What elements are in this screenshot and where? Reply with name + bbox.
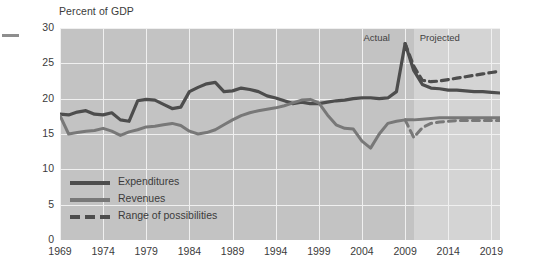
y-tick-label: 10 — [28, 162, 54, 174]
x-tick-label: 1999 — [297, 245, 341, 257]
y-tick-label: 0 — [28, 233, 54, 245]
x-tick-label: 2009 — [383, 245, 427, 257]
x-tick-label: 2019 — [469, 245, 513, 257]
chart-figure: Percent of GDP 051015202530 196919741979… — [0, 0, 535, 269]
x-tick-label: 1989 — [211, 245, 255, 257]
x-tick-label: 1994 — [254, 245, 298, 257]
x-tick-label: 1984 — [167, 245, 211, 257]
y-axis-title: Percent of GDP — [59, 5, 134, 17]
x-tick-label: 2014 — [426, 245, 470, 257]
y-tick-label: 25 — [28, 56, 54, 68]
legend-swatch-range — [70, 215, 110, 219]
x-tick-label: 1979 — [124, 245, 168, 257]
legend-swatch-expenditures — [70, 181, 110, 185]
x-tick-label: 1974 — [81, 245, 125, 257]
line-revenues — [60, 99, 500, 148]
legend-label-revenues: Revenues — [118, 192, 165, 204]
legend-label-range: Range of possibilities — [118, 209, 217, 221]
y-tick-label: 15 — [28, 127, 54, 139]
legend-label-expenditures: Expenditures — [118, 175, 179, 187]
legend-swatch-revenues — [70, 198, 110, 202]
line-range-upper — [405, 44, 500, 82]
line-range-lower — [405, 120, 500, 138]
x-tick-label: 1969 — [38, 245, 82, 257]
left-rule-mark — [2, 34, 19, 37]
x-tick-label: 2004 — [340, 245, 384, 257]
y-tick-label: 5 — [28, 198, 54, 210]
y-tick-label: 20 — [28, 92, 54, 104]
y-tick-label: 30 — [28, 21, 54, 33]
